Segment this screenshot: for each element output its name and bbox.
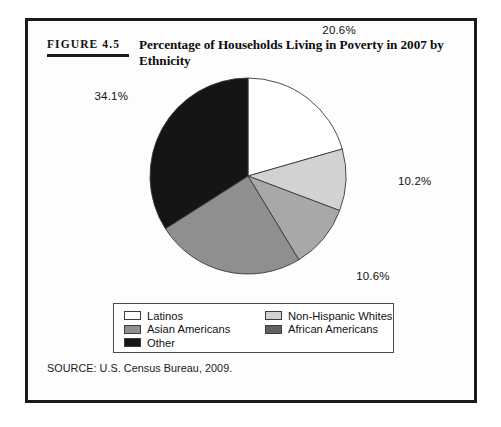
legend-swatch-icon xyxy=(265,311,282,320)
legend-item: African Americans xyxy=(265,323,405,337)
legend-grid: LatinosNon-Hispanic WhitesAsian American… xyxy=(124,309,393,350)
figure-rule xyxy=(47,54,129,57)
legend-swatch-icon xyxy=(265,325,282,334)
pie-slice-label: 10.2% xyxy=(398,175,432,187)
figure-frame: Figure 4.5 Percentage of Households Livi… xyxy=(25,18,477,403)
pie-chart xyxy=(28,69,474,309)
legend-item-label: Non-Hispanic Whites xyxy=(288,310,392,322)
legend-item: Latinos xyxy=(124,309,265,323)
legend-item-label: Latinos xyxy=(147,310,183,322)
source-note: SOURCE: U.S. Census Bureau, 2009. xyxy=(47,362,232,374)
legend-swatch-icon xyxy=(124,338,141,347)
figure-number: Figure 4.5 xyxy=(47,38,139,50)
legend-item-label: Asian Americans xyxy=(147,323,230,335)
pie-slice-label: 34.1% xyxy=(94,90,128,102)
legend-item-label: Other xyxy=(147,337,175,349)
figure-header: Figure 4.5 Percentage of Households Livi… xyxy=(47,37,451,68)
figure-number-block: Figure 4.5 xyxy=(47,37,139,57)
pie-chart-area: 20.6%10.2%10.6%24.7%34.1% xyxy=(28,69,474,309)
pie-slice-label: 20.6% xyxy=(322,24,356,36)
legend-swatch-icon xyxy=(124,311,141,320)
figure-title: Percentage of Households Living in Pover… xyxy=(139,37,451,68)
legend-item: Non-Hispanic Whites xyxy=(265,309,405,323)
legend-item: Other xyxy=(124,336,265,350)
legend-item-label: African Americans xyxy=(288,323,378,335)
legend-item: Asian Americans xyxy=(124,323,265,337)
chart-legend: LatinosNon-Hispanic WhitesAsian American… xyxy=(113,303,394,353)
legend-swatch-icon xyxy=(124,325,141,334)
pie-slice-label: 10.6% xyxy=(356,270,390,282)
